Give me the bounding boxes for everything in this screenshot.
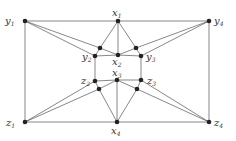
edge-z4-d <box>137 89 209 122</box>
edge-c-x3 <box>99 80 117 89</box>
label-z1: z1 <box>5 117 15 129</box>
edge-x4-d <box>117 89 137 122</box>
node-y2 <box>93 54 98 59</box>
label-y3: y3 <box>145 51 156 63</box>
node-x4 <box>115 120 120 125</box>
label-y1: y1 <box>4 15 14 27</box>
edge-x1-a <box>100 21 118 48</box>
edge-y4-b <box>136 21 209 48</box>
node-b <box>134 46 139 51</box>
edge-a-x2 <box>100 48 118 55</box>
node-d <box>135 87 140 92</box>
label-y2: y2 <box>81 51 92 63</box>
node-y3 <box>139 54 144 59</box>
label-x1: x1 <box>112 7 121 19</box>
label-z4: z4 <box>213 117 223 129</box>
label-x4: x4 <box>111 125 121 137</box>
node-z3 <box>139 78 144 83</box>
graph-diagram: y1x1y4y2x2y3z2x3z3z1x4z4 <box>0 0 236 141</box>
node-x1 <box>116 19 121 24</box>
label-z2: z2 <box>80 75 90 87</box>
edge-z2-x3 <box>95 80 117 81</box>
node-y1 <box>23 19 28 24</box>
label-x3: x3 <box>112 67 122 79</box>
node-z1 <box>23 120 28 125</box>
edge-z1-c <box>25 89 99 122</box>
edge-b-x2 <box>118 48 136 55</box>
node-y4 <box>207 19 212 24</box>
node-c <box>97 87 102 92</box>
edge-x1-b <box>118 21 136 48</box>
edge-x4-c <box>99 89 117 122</box>
label-z3: z3 <box>146 75 156 87</box>
edge-d-x3 <box>117 80 137 89</box>
edge-y1-a <box>25 21 100 48</box>
node-z4 <box>207 120 212 125</box>
label-y4: y4 <box>213 15 224 27</box>
node-a <box>98 46 103 51</box>
edge-z1-z2 <box>25 81 95 122</box>
edge-x2-y3 <box>118 55 141 56</box>
edge-z4-z3 <box>141 80 209 122</box>
node-z2 <box>93 79 98 84</box>
graph-labels: y1x1y4y2x2y3z2x3z3z1x4z4 <box>4 7 224 137</box>
